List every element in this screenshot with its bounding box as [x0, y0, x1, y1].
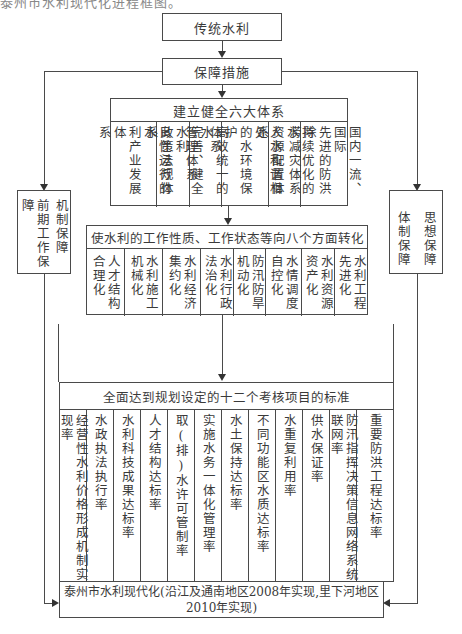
aspect-item: 水利资源资产化 — [302, 249, 335, 316]
connector — [44, 71, 162, 72]
frame-line — [393, 324, 394, 382]
assessment-item: 人才结构达标率 — [141, 410, 168, 583]
connector — [222, 315, 223, 375]
connector — [44, 274, 45, 604]
six-systems-title: 建立健全六大体系 — [111, 99, 347, 122]
aspect-item: 防汛防旱机动化 — [234, 249, 266, 316]
goal-line-2: 2010年实现) — [186, 600, 257, 616]
aspect-item: 水情调度自控化 — [266, 249, 302, 316]
node-six-systems: 建立健全六大体系 良性运行的水 利产业发展体 系 完善、健全水利 政策法规体系 … — [110, 98, 348, 206]
node-eight-aspects: 使水利的工作性质、工作状态等向八个方面转化 人才结构合理化 水利施工机械化 水利… — [86, 225, 368, 315]
aspect-item: 水利施工机械化 — [125, 249, 163, 316]
assessment-item: 水土保持达标率 — [222, 410, 249, 583]
assessment-item: 水政执法执行率 — [87, 410, 114, 583]
arrow-right-icon — [52, 599, 59, 607]
assessment-item: 实施水务一体化管理率 — [195, 410, 222, 583]
twelve-items-title: 全面达到规划设定的十二个考核项目的标准 — [60, 383, 393, 410]
assessment-item: 取(排)水许可管制率 — [168, 410, 195, 583]
arrow-down-icon — [218, 91, 226, 98]
arrow-down-icon — [218, 51, 226, 58]
cropped-caption: 泰州市水利现代化进程框图。 — [0, 0, 182, 11]
aspect-item: 水利经济集约化 — [163, 249, 201, 316]
arrow-down-icon — [218, 374, 226, 381]
assessment-item: 水利科技成果达标率 — [114, 410, 141, 583]
connector — [390, 603, 418, 604]
system-item: 国内一流、国际 先进的防洪除 涝减灾体系 — [301, 122, 347, 207]
connector — [282, 71, 418, 72]
connector — [44, 71, 45, 189]
eight-aspects-title: 使水利的工作性质、工作状态等向八个方面转化 — [87, 226, 367, 249]
node-measures: 保障措施 — [162, 58, 282, 85]
connector — [417, 71, 418, 189]
frame-line — [58, 324, 59, 382]
node-traditional: 传统水利 — [162, 13, 282, 41]
node-right-support: 思想保障 体制保障 — [389, 190, 443, 274]
assessment-item: 不同功能区水质达标率 — [249, 410, 276, 583]
aspect-item: 水利行政法治化 — [201, 249, 234, 316]
assessment-item: 经营性水利价格形成机制实现率 — [60, 410, 87, 583]
aspect-item: 人才结构合理化 — [87, 249, 125, 316]
assessment-item: 水重复利用率 — [276, 410, 303, 583]
assessment-item: 供水保证率 — [303, 410, 330, 583]
goal-line-1: 泰州市水利现代化(沿江及通南地区2008年实现,里下河地区 — [64, 584, 379, 600]
node-left-support: 机制保障 前期工作保障 — [17, 190, 71, 274]
node-twelve-items: 全面达到规划设定的十二个考核项目的标准 经营性水利价格形成机制实现率 水政执法执… — [59, 382, 394, 582]
arrow-down-icon — [224, 218, 232, 225]
connector — [417, 274, 418, 604]
node-goal: 泰州市水利现代化(沿江及通南地区2008年实现,里下河地区 2010年实现) — [59, 581, 384, 618]
aspect-item: 水利工程先进化 — [335, 249, 367, 316]
arrow-left-icon — [383, 599, 390, 607]
assessment-item: 防汛指挥决策信息网络系统联网率 — [330, 410, 357, 583]
assessment-item: 重要防洪工程达标率 — [357, 410, 393, 583]
